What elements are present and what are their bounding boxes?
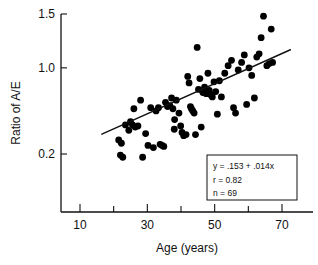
data-point [258, 34, 265, 41]
data-point [260, 13, 267, 20]
data-point [135, 123, 142, 130]
data-point [171, 116, 178, 123]
x-tick-label: 30 [141, 218, 155, 232]
data-point [196, 75, 203, 82]
data-point [256, 50, 263, 57]
annotation-correlation: r = 0.82 [213, 175, 242, 185]
data-point [221, 70, 228, 77]
data-point [251, 95, 258, 102]
data-point [192, 131, 199, 138]
data-point [238, 59, 245, 66]
data-point [241, 52, 248, 59]
x-tick-label: 70 [275, 218, 289, 232]
scatter-plot-figure: 1.51.00.2 10305070 Age (years) Ratio of … [0, 0, 318, 265]
data-point [150, 144, 157, 151]
data-point [194, 44, 201, 51]
y-axis-title: Ratio of A/E [9, 81, 23, 144]
data-point [171, 126, 178, 133]
data-point [142, 130, 149, 137]
data-point [228, 57, 235, 64]
annotation-count: n = 69 [213, 188, 237, 198]
data-point [212, 88, 219, 95]
data-point [248, 72, 255, 79]
data-point [198, 124, 205, 131]
chart-background [0, 0, 318, 265]
data-point [232, 110, 239, 117]
data-point [176, 110, 183, 117]
data-point [118, 140, 125, 147]
x-tick-label: 10 [73, 218, 87, 232]
data-point [268, 26, 275, 33]
data-point [119, 154, 126, 161]
data-point [130, 105, 137, 112]
x-axis-title: Age (years) [156, 241, 218, 255]
data-point [214, 111, 221, 118]
statistics-annotation-box: y = .153 + .014x r = 0.82 n = 69 [207, 155, 297, 200]
data-point [269, 59, 276, 66]
data-point [218, 94, 225, 101]
data-point [186, 80, 193, 87]
data-point [137, 97, 144, 104]
data-point [243, 101, 250, 108]
chart-canvas: 1.51.00.2 10305070 Age (years) Ratio of … [0, 0, 318, 265]
data-point [160, 143, 167, 150]
x-tick-label: 50 [208, 218, 222, 232]
data-point [191, 110, 198, 117]
data-point [177, 123, 184, 130]
data-point [170, 105, 177, 112]
data-point [205, 70, 212, 77]
data-point [139, 154, 146, 161]
data-point [184, 73, 191, 80]
y-tick-label: 1.0 [38, 61, 55, 75]
data-point [183, 131, 190, 138]
y-tick-label: 0.2 [38, 147, 55, 161]
y-tick-label: 1.5 [38, 7, 55, 21]
annotation-equation: y = .153 + .014x [213, 161, 275, 171]
